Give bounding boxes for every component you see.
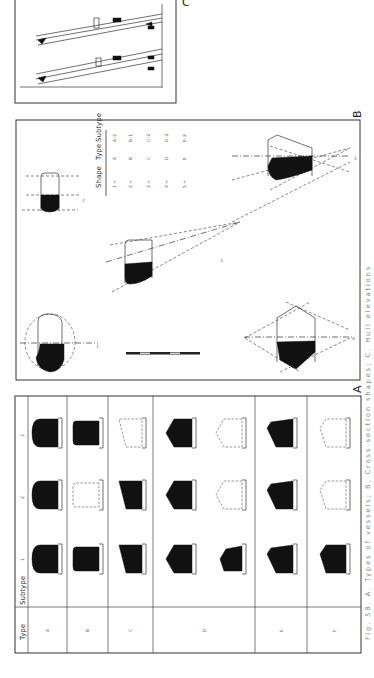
- shape-baseline: [99, 544, 103, 574]
- shape-filled: [166, 481, 192, 509]
- shape-filled: [166, 419, 192, 447]
- table-cell: D–2: [164, 133, 169, 142]
- subtype-label-1: 1: [20, 558, 25, 561]
- shape-outline: [119, 419, 142, 447]
- subtype-label-2: 2: [20, 496, 25, 499]
- panel-a-label: A: [351, 385, 364, 393]
- shape-baseline: [192, 418, 196, 448]
- shape-filled: [119, 481, 142, 509]
- section-shape-1: 1: [20, 314, 99, 372]
- shape-filled: [73, 547, 99, 571]
- panel-c-label: C: [182, 0, 190, 9]
- panel-b: B ShapeTypeSubtype1 =AA–22 =BB–13 =CC–24…: [16, 110, 364, 380]
- shape-baseline: [346, 480, 350, 510]
- shape-filled: [267, 545, 293, 573]
- vessel-shape-e-3: [267, 418, 297, 448]
- shape-baseline: [58, 544, 62, 574]
- panel-c: C: [15, 0, 190, 103]
- shape-baseline: [242, 544, 246, 574]
- shape-baseline: [293, 544, 297, 574]
- shape-baseline: [242, 480, 246, 510]
- vessel-shape-a-2: [32, 480, 62, 510]
- vessel-shape-d-3: [166, 418, 196, 448]
- shape-baseline: [293, 480, 297, 510]
- vessel-shape-a-1: [32, 544, 62, 574]
- shape-label-2: 2: [82, 198, 85, 203]
- shape-label-1: 1: [96, 344, 99, 349]
- vessel-shape-c-3: [119, 418, 146, 448]
- shape-outline: [320, 419, 346, 447]
- table-row: 4 =DD–2: [164, 133, 169, 188]
- shape-filled: [32, 545, 58, 573]
- shape-filled: [73, 421, 99, 445]
- table-cell: C: [146, 157, 151, 160]
- panel-b-label: B: [351, 110, 364, 118]
- vessel-shape-c-1: [119, 544, 146, 574]
- shape-filled: [119, 545, 142, 573]
- vessel-shape-f-2: [320, 480, 350, 510]
- shape-baseline: [99, 418, 103, 448]
- table-row: 5 =EE–2: [182, 134, 187, 188]
- shape-type-table: ShapeTypeSubtype1 =AA–22 =BB–13 =CC–24 =…: [95, 113, 187, 196]
- shape-filled: [32, 419, 58, 447]
- vessel-shape-e-1: [267, 544, 297, 574]
- vessel-shape-c-2: [119, 480, 146, 510]
- table-row: 1 =AA–2: [112, 134, 117, 188]
- shape-filled: [220, 546, 242, 571]
- shape-filled: [267, 481, 293, 509]
- shape-baseline: [293, 418, 297, 448]
- table-header-subtype: Subtype: [95, 113, 103, 142]
- section-shape-5: 5: [232, 135, 357, 222]
- table-cell: 3 =: [146, 180, 151, 188]
- table-cell: A–2: [112, 134, 117, 142]
- shape-label-3: 3: [220, 258, 223, 263]
- table-row: 2 =BB–1: [128, 134, 133, 188]
- section-shape-4: 4: [244, 302, 355, 372]
- type-label: B: [85, 629, 90, 632]
- table-cell: E–2: [182, 134, 187, 142]
- table-cell: B–1: [128, 134, 133, 142]
- vessel-shape-d-3: [216, 418, 246, 448]
- type-label: E: [279, 629, 284, 632]
- shape-baseline: [242, 418, 246, 448]
- shape-outline: [320, 481, 346, 509]
- type-label: D: [202, 628, 207, 632]
- scale-bar: [126, 352, 200, 355]
- shape-baseline: [346, 544, 350, 574]
- shape-baseline: [58, 418, 62, 448]
- vessel-shape-b-3: [73, 418, 103, 448]
- shape-outline: [73, 483, 99, 507]
- table-cell: 1 =: [112, 180, 117, 188]
- shape-filled: [32, 481, 58, 509]
- type-label: C: [128, 629, 133, 632]
- table-cell: A: [112, 156, 117, 160]
- table-row: 3 =CC–2: [146, 134, 151, 188]
- table-cell: 4 =: [164, 180, 169, 188]
- figure-page: C B ShapeTypeSubtype1 =AA–22 =BB–13 =CC–…: [0, 0, 374, 678]
- shape-baseline: [142, 544, 146, 574]
- vessel-shape-d-2: [216, 480, 246, 510]
- hull-elevation-lower: [20, 49, 162, 87]
- shape-label-5: 5: [354, 156, 357, 161]
- shape-baseline: [192, 544, 196, 574]
- vessel-shape-d-1: [220, 544, 246, 574]
- header-type-label: Type: [19, 624, 27, 641]
- header-subtype-label: Subtype: [19, 576, 27, 605]
- type-label: F: [332, 629, 337, 632]
- table-cell: C–2: [146, 134, 151, 142]
- shape-baseline: [142, 418, 146, 448]
- shape-baseline: [192, 480, 196, 510]
- vessel-shape-f-3: [320, 418, 350, 448]
- vessel-shape-b-2: [73, 480, 103, 510]
- shape-baseline: [142, 480, 146, 510]
- vessel-shape-a-3: [32, 418, 62, 448]
- table-cell: D: [164, 156, 169, 160]
- shape-filled: [267, 419, 293, 447]
- shape-outline: [216, 419, 242, 447]
- shape-filled: [166, 545, 192, 573]
- shape-baseline: [346, 418, 350, 448]
- shape-filled: [320, 545, 346, 573]
- section-shape-3: 3: [106, 222, 240, 292]
- shape-baseline: [99, 480, 103, 510]
- table-cell: B: [128, 157, 133, 160]
